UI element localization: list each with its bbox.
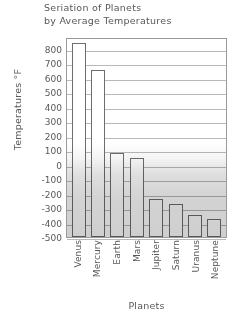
bar-neptune [207, 219, 221, 237]
x-tick-label-uranus: Uranus [191, 240, 201, 273]
y-tick-label-700: 700 [0, 59, 62, 69]
bar-slot-uranus [185, 39, 204, 237]
y-tick-label-100: 100 [0, 146, 62, 156]
x-tick-label-venus: Venus [73, 240, 83, 268]
chart-figure: Seriation of Planets by Average Temperat… [0, 0, 241, 322]
chart-title: Seriation of Planets by Average Temperat… [44, 2, 239, 27]
y-tick-label-0: 0 [0, 161, 62, 171]
bar-venus [72, 43, 86, 237]
bar-slot-mars [127, 39, 146, 237]
bar-slot-jupiter [147, 39, 166, 237]
y-tick-label-500: 500 [0, 88, 62, 98]
x-slot-jupiter: Jupiter [147, 240, 167, 298]
x-tick-label-mercury: Mercury [92, 240, 102, 277]
bar-slot-neptune [205, 39, 224, 237]
bar-slot-earth [108, 39, 127, 237]
bar-jupiter [149, 199, 163, 237]
x-tick-label-mars: Mars [132, 240, 142, 262]
bar-mars [130, 158, 144, 237]
y-tick-label-300: 300 [0, 117, 62, 127]
x-slot-neptune: Neptune [205, 240, 225, 298]
y-tick-label-600: 600 [0, 74, 62, 84]
x-tick-label-jupiter: Jupiter [151, 240, 161, 270]
x-slot-earth: Earth [107, 240, 127, 298]
y-tick-label--500: -500 [0, 233, 62, 243]
y-tick-label-200: 200 [0, 132, 62, 142]
x-slot-uranus: Uranus [186, 240, 206, 298]
bar-saturn [169, 204, 183, 237]
x-axis-label: Planets [66, 300, 227, 311]
x-slot-saturn: Saturn [166, 240, 186, 298]
x-tick-label-neptune: Neptune [210, 240, 220, 279]
x-slot-mars: Mars [127, 240, 147, 298]
bar-slot-saturn [166, 39, 185, 237]
x-slot-mercury: Mercury [88, 240, 108, 298]
y-tick-label--400: -400 [0, 219, 62, 229]
x-tick-label-saturn: Saturn [171, 240, 181, 270]
chart-title-line-2: by Average Temperatures [44, 15, 239, 28]
bar-slot-venus [69, 39, 88, 237]
bar-uranus [188, 215, 202, 237]
x-slot-venus: Venus [68, 240, 88, 298]
plot-area [66, 38, 227, 238]
chart-title-line-1: Seriation of Planets [44, 2, 239, 15]
y-tick-label--200: -200 [0, 190, 62, 200]
y-tick-label--100: -100 [0, 175, 62, 185]
y-tick-label-400: 400 [0, 103, 62, 113]
bar-earth [110, 153, 124, 237]
bar-mercury [91, 70, 105, 237]
x-axis-ticks: VenusMercuryEarthMarsJupiterSaturnUranus… [66, 240, 227, 298]
bar-series [67, 39, 226, 237]
y-tick-label--300: -300 [0, 204, 62, 214]
y-tick-label-800: 800 [0, 45, 62, 55]
bar-slot-mercury [88, 39, 107, 237]
x-tick-label-earth: Earth [112, 240, 122, 265]
